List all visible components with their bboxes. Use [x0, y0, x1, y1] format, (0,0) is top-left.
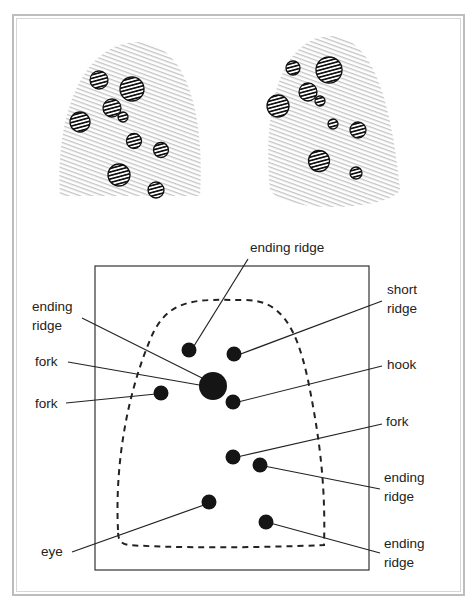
minutia-ending-ridge-right-2: [259, 515, 274, 530]
left-fingerprint: [59, 42, 200, 198]
leader-lines: [66, 259, 382, 553]
label-ending-ridge-right-1: ending ridge: [384, 468, 425, 506]
finger-outline: [117, 300, 324, 547]
label-ending-ridge-left: ending ridge: [32, 297, 73, 335]
minutia-eye: [202, 495, 217, 510]
minutia-hook: [226, 395, 241, 410]
label-fork-left-2: fork: [35, 394, 58, 413]
minutia-ending-ridge-right-1: [253, 458, 268, 473]
label-hook: hook: [387, 355, 416, 374]
label-fork-left-1: fork: [35, 352, 58, 371]
diagram-box: [95, 266, 369, 570]
minutia-fork-left: [154, 386, 169, 401]
label-short-ridge: short ridge: [387, 280, 417, 318]
minutia-short-ridge: [227, 347, 242, 362]
minutia-fork-right: [226, 450, 241, 465]
minutia-ending-ridge-fork-center: [199, 372, 227, 400]
minutiae-points: [154, 343, 274, 530]
label-ending-ridge-top: ending ridge: [250, 238, 324, 257]
label-fork-right: fork: [386, 412, 409, 431]
label-eye: eye: [41, 542, 63, 561]
right-fingerprint: [267, 36, 400, 207]
minutia-ending-ridge-top: [182, 343, 197, 358]
label-ending-ridge-right-2: ending ridge: [384, 534, 425, 572]
